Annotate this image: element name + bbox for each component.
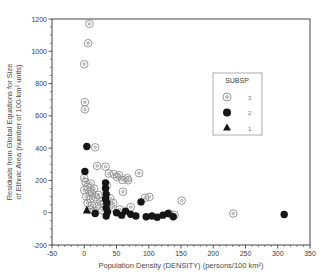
data-point-open-circle [146,193,154,201]
x-tick-label: 350 [304,250,316,257]
data-point-open-circle [86,20,94,28]
scatter-plot-figure: -50050100150200250300350 -20002004006008… [0,0,329,279]
data-point-open-circle [91,144,99,152]
x-tick-label: 50 [113,250,121,257]
data-point-filled-triangle [83,206,91,214]
data-point-open-circle [229,210,237,218]
scatter-chart: -50050100150200250300350 -20002004006008… [0,0,329,279]
plot-frame [52,19,310,245]
filled-circle-icon [223,109,231,117]
y-tick-label: 1200 [31,16,47,23]
data-point-open-circle [81,106,89,114]
y-tick-label: 600 [35,112,47,119]
data-point-open-circle [105,170,113,178]
data-point-filled-circle [102,212,109,219]
y-axis-title-line1: Residuals from Global Equations for Size [5,64,14,201]
data-point-open-circle [80,60,88,68]
data-point-filled-circle [137,198,144,205]
x-axis-ticks: -50050100150200250300350 [47,245,316,257]
x-tick-label: 0 [82,250,86,257]
x-tick-label: 150 [175,250,187,257]
x-tick-label: 100 [143,250,155,257]
y-tick-label: -200 [33,242,47,249]
data-point-open-circle [110,170,118,178]
data-point-open-circle [84,39,92,47]
x-tick-label: 250 [240,250,252,257]
y-axis-title-line2: of Ethnic Area (number of 100-km² units) [14,64,23,200]
x-axis-title: Population Density (DENSITY) (persons/10… [98,261,264,270]
legend: SUBSP 3 2 1 [213,73,262,135]
y-tick-label: 0 [43,209,47,216]
data-point-filled-circle [81,168,88,175]
y-tick-label: 200 [35,177,47,184]
data-point-open-circle [81,98,89,106]
x-tick-label: 200 [207,250,219,257]
y-tick-label: 800 [35,80,47,87]
data-point-open-circle [93,162,101,170]
data-point-filled-circle [132,212,139,219]
x-tick-label: -50 [47,250,57,257]
data-point-open-circle [119,188,127,196]
data-point-filled-circle [92,210,99,217]
y-axis-ticks: -200020040060080010001200 [31,16,52,249]
data-point-filled-circle [83,143,90,150]
data-point-filled-circle [281,211,288,218]
legend-title: SUBSP [225,77,249,84]
data-point-open-circle [135,169,143,177]
data-point-filled-circle [170,213,177,220]
y-tick-label: 400 [35,145,47,152]
y-tick-label: 1000 [31,48,47,55]
x-tick-label: 300 [272,250,284,257]
data-point-open-circle [178,197,186,205]
